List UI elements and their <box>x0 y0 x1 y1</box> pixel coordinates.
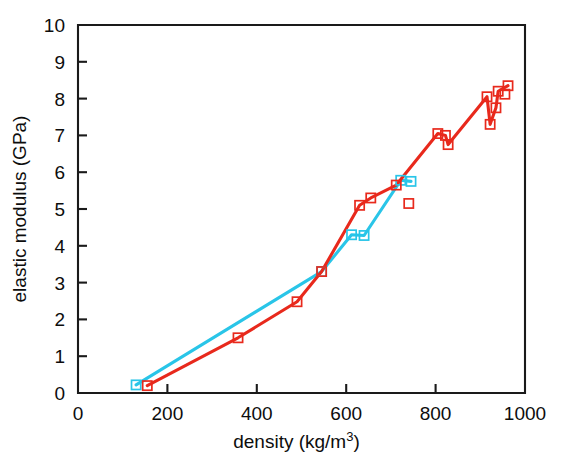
chart-axes <box>78 25 525 393</box>
x-tick-label: 600 <box>330 403 362 424</box>
data-point-marker <box>366 193 375 202</box>
x-tick-label: 800 <box>420 403 452 424</box>
data-point-marker <box>132 380 141 389</box>
data-point-marker <box>143 381 152 390</box>
data-point-marker <box>347 230 356 239</box>
x-tick-label: 200 <box>152 403 184 424</box>
x-tick-label: 400 <box>241 403 273 424</box>
data-point-marker <box>359 231 368 240</box>
series-line-red-series <box>147 86 508 386</box>
data-point-marker <box>406 177 415 186</box>
data-point-marker <box>491 103 500 112</box>
data-point-marker <box>392 180 401 189</box>
y-tick-label: 0 <box>54 383 65 404</box>
data-point-marker <box>233 333 242 342</box>
data-point-marker <box>444 140 453 149</box>
data-point-marker <box>486 120 495 129</box>
data-point-marker <box>404 199 413 208</box>
chart-labels: 01234567891002004006008001000density (kg… <box>9 15 546 452</box>
y-tick-label: 9 <box>54 52 65 73</box>
y-tick-label: 2 <box>54 309 65 330</box>
y-tick-label: 5 <box>54 199 65 220</box>
data-point-marker <box>317 267 326 276</box>
y-axis-label: elastic modulus (GPa) <box>9 116 30 303</box>
y-tick-label: 10 <box>44 15 65 36</box>
data-point-marker <box>292 297 301 306</box>
y-tick-label: 7 <box>54 125 65 146</box>
plot-frame <box>78 25 525 393</box>
data-point-marker <box>503 81 512 90</box>
series-line-cyan-series <box>136 180 411 385</box>
chart-series <box>132 81 513 390</box>
x-axis-label: density (kg/m3) <box>233 429 360 452</box>
data-point-marker <box>482 92 491 101</box>
y-tick-label: 8 <box>54 89 65 110</box>
y-tick-label: 1 <box>54 346 65 367</box>
y-tick-label: 6 <box>54 162 65 183</box>
x-tick-label: 0 <box>73 403 84 424</box>
y-tick-label: 3 <box>54 273 65 294</box>
y-tick-label: 4 <box>54 236 65 257</box>
elastic-modulus-vs-density-chart: 01234567891002004006008001000density (kg… <box>0 0 570 466</box>
x-tick-label: 1000 <box>504 403 546 424</box>
data-point-marker <box>441 131 450 140</box>
data-point-marker <box>355 201 364 210</box>
chart-container: 01234567891002004006008001000density (kg… <box>0 0 570 466</box>
